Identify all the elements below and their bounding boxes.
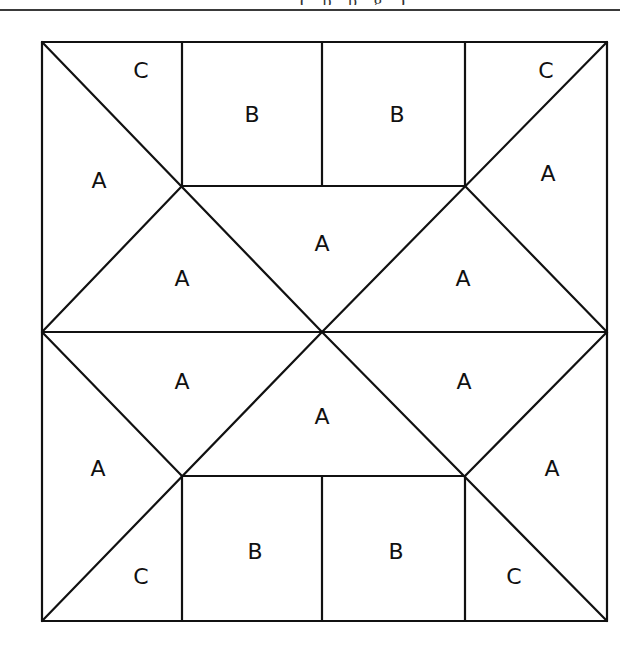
diag-x2y1-right-mid-line xyxy=(465,186,607,332)
piece-label-a-left-upper: A xyxy=(91,168,106,193)
piece-label-a-left-lower: A xyxy=(90,456,105,481)
piece-label-a-upper-right-mid: A xyxy=(455,266,470,291)
piece-label-a-right-upper: A xyxy=(540,161,555,186)
piece-label-c-top-right: C xyxy=(538,58,553,83)
diag-x2y2-right-mid-line xyxy=(465,332,607,476)
piece-label-c-top-left: C xyxy=(133,58,148,83)
piece-label-b-bottom-1: B xyxy=(247,539,262,564)
piece-label-c-bottom-right: C xyxy=(506,564,521,589)
piece-label-b-top-1: B xyxy=(244,102,259,127)
piece-label-a-lower-left-mid: A xyxy=(174,369,189,394)
diag-x1y2-left-mid-line xyxy=(42,332,182,476)
piece-label-a-right-lower: A xyxy=(544,456,559,481)
piece-label-b-bottom-2: B xyxy=(388,539,403,564)
piece-label-a-center-bottom: A xyxy=(314,404,329,429)
piece-label-a-upper-left-mid: A xyxy=(174,266,189,291)
piece-label-b-top-2: B xyxy=(389,102,404,127)
piece-label-a-center-top: A xyxy=(314,231,329,256)
piece-label-a-lower-right-mid: A xyxy=(456,369,471,394)
diag-x1y1-left-mid-line xyxy=(42,186,182,332)
pattern-lines xyxy=(42,42,607,621)
piece-labels: CBBCAAAAAAAAAACBBC xyxy=(90,58,559,589)
quilt-block-diagram: CBBCAAAAAAAAAACBBC xyxy=(0,0,633,658)
piece-label-c-bottom-left: C xyxy=(133,564,148,589)
